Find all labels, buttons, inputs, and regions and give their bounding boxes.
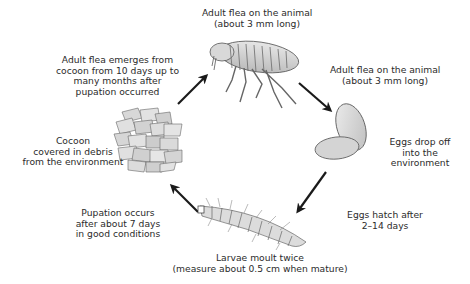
label-line: Eggs drop off [380, 137, 460, 148]
label-line: from the environment [18, 157, 128, 168]
stage-label-cocoon: Cocoon covered in debris from the enviro… [18, 136, 128, 168]
label-line: Cocoon [18, 136, 128, 147]
label-line: (measure about 0.5 cm when mature) [170, 264, 350, 275]
arrow-down-right-icon [299, 83, 330, 110]
label-line: in good conditions [68, 229, 168, 240]
stage-label-emerge: Adult flea emerges from cocoon from 10 d… [55, 55, 180, 97]
stage-label-eggs: Eggs drop off into the environment [380, 137, 460, 169]
arrow-up-left-icon [172, 186, 198, 212]
stage-label-adult-top: Adult flea on the animal (about 3 mm lon… [202, 8, 312, 29]
stage-label-adult-right: Adult flea on the animal (about 3 mm lon… [330, 65, 440, 86]
label-line: Eggs hatch after [335, 210, 435, 221]
label-line: Adult flea on the animal [202, 8, 312, 19]
stage-label-hatch: Eggs hatch after 2–14 days [335, 210, 435, 231]
label-line: 2–14 days [335, 221, 435, 232]
label-line: pupation occurred [55, 87, 180, 98]
label-line: environment [380, 158, 460, 169]
larva-illustration [198, 198, 306, 250]
label-line: Pupation occurs [68, 208, 168, 219]
label-line: (about 3 mm long) [330, 76, 440, 87]
arrow-down-left-icon [298, 172, 326, 211]
label-line: Larvae moult twice [170, 253, 350, 264]
stage-label-pupation: Pupation occurs after about 7 days in go… [68, 208, 168, 240]
label-line: Adult flea emerges from [55, 55, 180, 66]
arrow-up-right-icon [178, 76, 206, 104]
label-line: Adult flea on the animal [330, 65, 440, 76]
stage-label-larvae: Larvae moult twice (measure about 0.5 cm… [170, 253, 350, 274]
adult-flea-illustration [210, 37, 301, 108]
eggs-illustration [314, 100, 372, 161]
label-line: (about 3 mm long) [202, 19, 312, 30]
